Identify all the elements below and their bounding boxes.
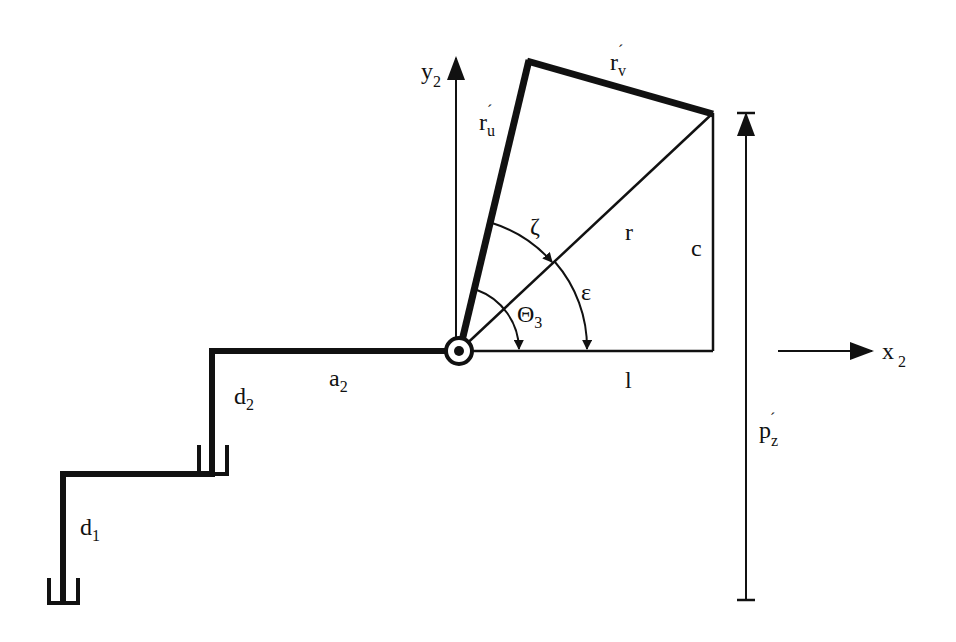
zeta-arc: [492, 223, 552, 262]
ru-label: ru´: [479, 102, 495, 139]
kinematics-diagram: y2 rv´ ru´ ζ r c ε Θ3 l a2 d2 d1 x2 pz´: [0, 0, 956, 642]
pz-label: pz´: [759, 410, 778, 449]
link-d1: [49, 474, 215, 603]
l-label: l: [625, 367, 632, 393]
d2-label: d2: [234, 383, 254, 413]
r-label: r: [625, 219, 633, 245]
rv-label: rv´: [610, 42, 626, 79]
c-label: c: [691, 235, 702, 261]
pz-dimension: [737, 113, 755, 600]
zeta-label: ζ: [530, 213, 540, 239]
y2-label: y2: [421, 58, 441, 90]
rotary-joint-icon: [446, 338, 472, 364]
epsilon-arc: [555, 262, 587, 349]
epsilon-label: ε: [581, 279, 591, 305]
d1-label: d1: [80, 514, 100, 544]
x2-label: x2: [882, 338, 906, 370]
a2-label: a2: [329, 365, 348, 395]
link-d2: [199, 351, 455, 474]
r-segment: [459, 113, 713, 351]
theta3-arc: [477, 290, 519, 349]
theta3-label: Θ3: [517, 301, 542, 331]
